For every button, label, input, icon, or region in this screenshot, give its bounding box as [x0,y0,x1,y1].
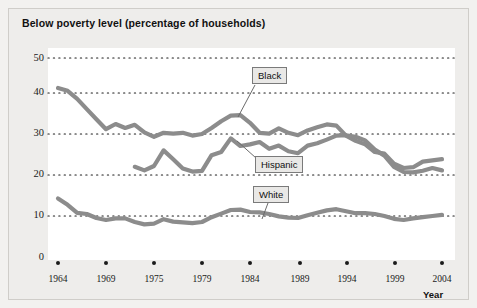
series-line-white [58,198,442,224]
series-lines [58,88,442,224]
callout-hispanic[interactable]: Hispanic [255,156,303,173]
callout-black[interactable]: Black [252,67,287,84]
chart-figure: Below poverty level (percentage of house… [0,0,477,308]
chart-svg [0,0,477,308]
callout-white[interactable]: White [253,186,289,203]
leader-line-black [238,85,255,117]
